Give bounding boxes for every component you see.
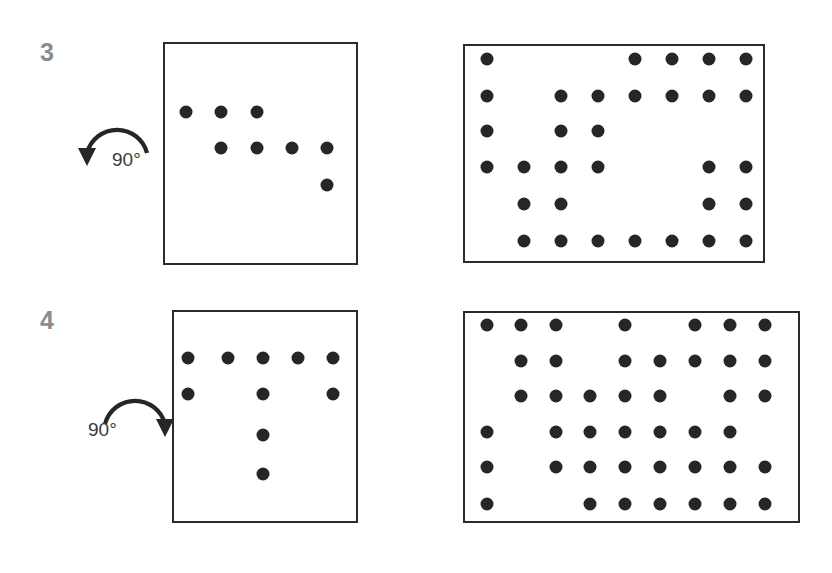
rotation-label: 90° [88, 420, 117, 439]
grid-dot [480, 497, 493, 510]
grid-dot [723, 497, 736, 510]
grid-dot [688, 318, 701, 331]
grid-dot [517, 234, 530, 247]
grid-dot [285, 141, 298, 154]
grid-dot [688, 497, 701, 510]
grid-dot [181, 387, 194, 400]
figure-canvas: 390°490° [0, 0, 832, 573]
grid-dot [480, 124, 493, 137]
grid-dot [517, 197, 530, 210]
grid-dot [653, 389, 666, 402]
result-panel [463, 44, 765, 263]
grid-dot [653, 497, 666, 510]
grid-dot [723, 318, 736, 331]
grid-dot [480, 160, 493, 173]
grid-dot [739, 197, 752, 210]
grid-dot [618, 460, 631, 473]
grid-dot [702, 89, 715, 102]
grid-dot [758, 460, 771, 473]
grid-dot [702, 234, 715, 247]
source-panel [172, 310, 358, 523]
grid-dot [688, 354, 701, 367]
grid-dot [723, 354, 736, 367]
grid-dot [723, 425, 736, 438]
grid-dot [221, 351, 234, 364]
grid-dot [320, 141, 333, 154]
grid-dot [549, 460, 562, 473]
grid-dot [739, 89, 752, 102]
grid-dot [665, 89, 678, 102]
grid-dot [554, 234, 567, 247]
grid-dot [618, 389, 631, 402]
grid-dot [591, 234, 604, 247]
grid-dot [256, 467, 269, 480]
grid-dot [618, 318, 631, 331]
grid-dot [256, 387, 269, 400]
grid-dot [618, 425, 631, 438]
source-panel [163, 42, 358, 265]
grid-dot [179, 105, 192, 118]
grid-dot [480, 425, 493, 438]
grid-dot [583, 460, 596, 473]
grid-dot [514, 318, 527, 331]
grid-dot [549, 354, 562, 367]
grid-dot [739, 160, 752, 173]
grid-dot [628, 52, 641, 65]
grid-dot [554, 89, 567, 102]
grid-dot [554, 124, 567, 137]
grid-dot [549, 318, 562, 331]
grid-dot [591, 89, 604, 102]
grid-dot [320, 178, 333, 191]
grid-dot [583, 425, 596, 438]
grid-dot [256, 351, 269, 364]
grid-dot [517, 160, 530, 173]
grid-dot [256, 428, 269, 441]
grid-dot [653, 425, 666, 438]
result-panel [463, 311, 800, 523]
grid-dot [480, 460, 493, 473]
grid-dot [723, 460, 736, 473]
grid-dot [514, 354, 527, 367]
grid-dot [326, 387, 339, 400]
grid-dot [758, 389, 771, 402]
row-index-label: 4 [40, 308, 54, 333]
grid-dot [739, 52, 752, 65]
grid-dot [723, 389, 736, 402]
grid-dot [214, 141, 227, 154]
grid-dot [665, 52, 678, 65]
grid-dot [480, 52, 493, 65]
grid-dot [591, 160, 604, 173]
grid-dot [688, 460, 701, 473]
grid-dot [554, 160, 567, 173]
grid-dot [758, 497, 771, 510]
grid-dot [583, 389, 596, 402]
grid-dot [250, 141, 263, 154]
grid-dot [618, 354, 631, 367]
grid-dot [554, 197, 567, 210]
grid-dot [514, 389, 527, 402]
grid-dot [758, 318, 771, 331]
grid-dot [583, 497, 596, 510]
grid-dot [480, 318, 493, 331]
grid-dot [618, 497, 631, 510]
grid-dot [549, 425, 562, 438]
grid-dot [688, 425, 701, 438]
grid-dot [628, 89, 641, 102]
grid-dot [702, 52, 715, 65]
grid-dot [702, 160, 715, 173]
grid-dot [291, 351, 304, 364]
rotation-label: 90° [112, 150, 141, 169]
grid-dot [591, 124, 604, 137]
grid-dot [628, 234, 641, 247]
grid-dot [250, 105, 263, 118]
grid-dot [326, 351, 339, 364]
grid-dot [665, 234, 678, 247]
grid-dot [758, 354, 771, 367]
grid-dot [702, 197, 715, 210]
grid-dot [549, 389, 562, 402]
grid-dot [739, 234, 752, 247]
row-index-label: 3 [40, 40, 54, 65]
grid-dot [653, 460, 666, 473]
grid-dot [653, 354, 666, 367]
grid-dot [181, 351, 194, 364]
